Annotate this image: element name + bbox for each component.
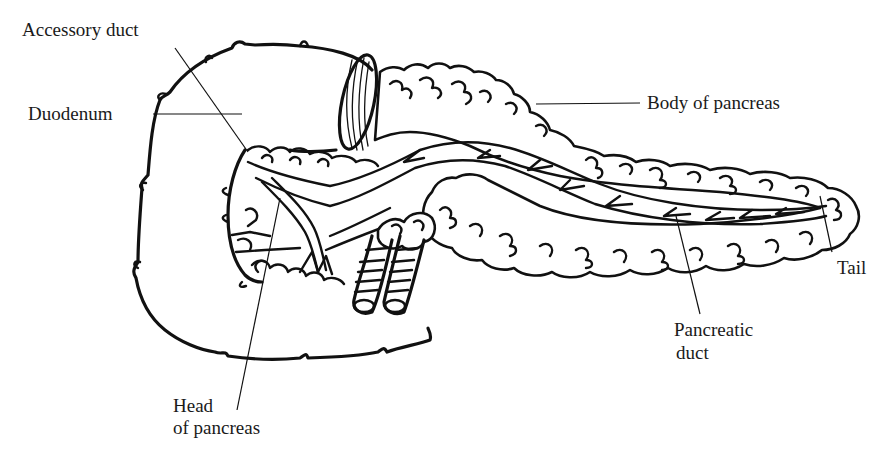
label-head-line1: Head [173,395,213,416]
label-tail: Tail [837,257,866,278]
diagram-illustration [0,0,895,461]
label-body-of-pancreas: Body of pancreas [647,92,780,113]
leader-head-of-pancreas [237,198,280,410]
label-head-line2: of pancreas [173,417,260,438]
pancreas-diagram: Accessory duct Duodenum Body of pancreas… [0,0,895,461]
pancreas-body-shape [375,64,859,278]
blood-vessels [354,236,424,314]
label-duodenum: Duodenum [28,103,112,124]
pancreas-lower-lobules [378,213,435,249]
label-accessory-duct: Accessory duct [22,19,139,40]
label-pancreatic-duct-line1: Pancreatic [674,319,753,340]
leader-body-of-pancreas [536,103,640,104]
label-pancreatic-duct-line2: duct [676,342,709,363]
leader-accessory-duct [175,48,248,152]
